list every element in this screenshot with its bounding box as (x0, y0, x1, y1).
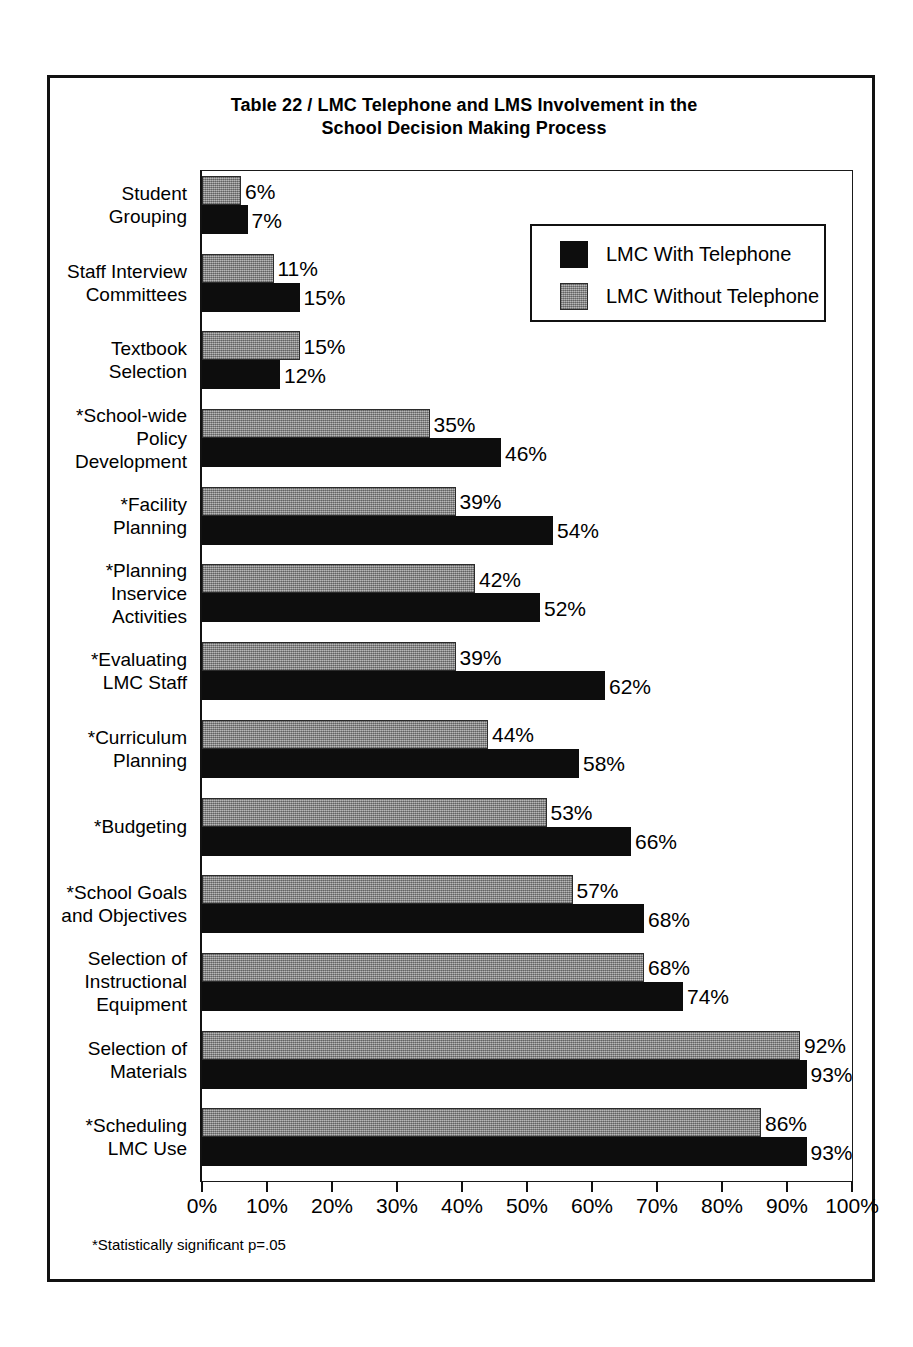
footnote: *Statistically significant p=.05 (92, 1236, 286, 1254)
bar-with-telephone (202, 593, 540, 622)
category-label-line: Equipment (0, 993, 187, 1016)
bar-without-telephone (202, 875, 573, 904)
bar-row: 52% (202, 593, 852, 622)
category-label-line: *Curriculum (0, 726, 187, 749)
category-label: *CurriculumPlanning (0, 726, 187, 772)
category-label-line: Grouping (0, 205, 187, 228)
axis-tick-mark (526, 1181, 528, 1192)
bar-with-telephone (202, 360, 280, 389)
bar-with-telephone (202, 1137, 807, 1166)
bar-value-label: 35% (430, 413, 476, 434)
bar-with-telephone (202, 1060, 807, 1089)
bar-row: 93% (202, 1137, 852, 1166)
bar-group: 53%66% (202, 798, 852, 856)
category-label-line: Planning (0, 516, 187, 539)
axis-tick-label: 50% (506, 1194, 548, 1217)
axis-tick-mark (851, 1181, 853, 1192)
axis-tick-mark (656, 1181, 658, 1192)
axis-tick-label: 10% (246, 1194, 288, 1217)
axis-tick-mark (461, 1181, 463, 1192)
bar-row: 44% (202, 720, 852, 749)
bar-row: 92% (202, 1031, 852, 1060)
category-label-line: *School-wide (0, 404, 187, 427)
category-label: Selection ofMaterials (0, 1037, 187, 1083)
bar-without-telephone (202, 331, 300, 360)
bar-row: 68% (202, 953, 852, 982)
bar-row: 74% (202, 982, 852, 1011)
bar-without-telephone (202, 720, 488, 749)
bar-with-telephone (202, 283, 300, 312)
title-line-1: Table 22 / LMC Telephone and LMS Involve… (50, 94, 878, 117)
axis-tick-label: 100% (825, 1194, 879, 1217)
bar-value-label: 11% (274, 258, 318, 279)
bar-row: 12% (202, 360, 852, 389)
bar-without-telephone (202, 1031, 800, 1060)
category-label: *FacilityPlanning (0, 493, 187, 539)
category-label: *PlanningInserviceActivities (0, 559, 187, 628)
bar-without-telephone (202, 1108, 761, 1137)
bar-value-label: 7% (248, 209, 282, 230)
bar-with-telephone (202, 827, 631, 856)
axis-tick-mark (786, 1181, 788, 1192)
category-label-line: *Facility (0, 493, 187, 516)
category-label: StudentGrouping (0, 182, 187, 228)
axis-tick-label: 0% (187, 1194, 217, 1217)
category-label-line: Selection (0, 360, 187, 383)
category-label-line: Staff Interview (0, 260, 187, 283)
axis-tick-label: 70% (636, 1194, 678, 1217)
bar-value-label: 62% (605, 675, 651, 696)
axis-tick-mark (591, 1181, 593, 1192)
category-axis-labels: StudentGroupingStaff InterviewCommittees… (50, 171, 195, 1181)
bar-row: 58% (202, 749, 852, 778)
bar-row: 6% (202, 176, 852, 205)
legend-swatch-black-icon (560, 241, 588, 268)
bar-row: 86% (202, 1108, 852, 1137)
bar-row: 39% (202, 642, 852, 671)
bar-with-telephone (202, 671, 605, 700)
bar-value-label: 86% (761, 1112, 807, 1133)
bar-without-telephone (202, 254, 274, 283)
bar-row: 54% (202, 516, 852, 545)
category-label: *EvaluatingLMC Staff (0, 648, 187, 694)
chart-legend: LMC With Telephone LMC Without Telephone (530, 224, 826, 322)
bar-row: 66% (202, 827, 852, 856)
bar-with-telephone (202, 904, 644, 933)
category-label-line: and Objectives (0, 904, 187, 927)
bar-value-label: 57% (573, 879, 619, 900)
category-label: Selection ofInstructionalEquipment (0, 947, 187, 1016)
bar-row: 68% (202, 904, 852, 933)
bar-group: 86%93% (202, 1108, 852, 1166)
bar-group: 39%54% (202, 487, 852, 545)
bar-value-label: 74% (683, 986, 729, 1007)
category-label-line: Activities (0, 605, 187, 628)
axis-tick-label: 80% (701, 1194, 743, 1217)
legend-item-without-telephone: LMC Without Telephone (560, 281, 819, 311)
bar-with-telephone (202, 749, 579, 778)
title-line-2: School Decision Making Process (50, 117, 878, 140)
category-label: *Budgeting (0, 815, 187, 838)
bar-value-label: 44% (488, 724, 534, 745)
bar-row: 46% (202, 438, 852, 467)
bar-without-telephone (202, 409, 430, 438)
axis-tick-label: 20% (311, 1194, 353, 1217)
legend-item-with-telephone: LMC With Telephone (560, 239, 791, 269)
bar-row: 57% (202, 875, 852, 904)
legend-label-with-telephone: LMC With Telephone (606, 244, 791, 264)
bar-value-label: 42% (475, 568, 521, 589)
category-label-line: LMC Use (0, 1137, 187, 1160)
bar-with-telephone (202, 982, 683, 1011)
bar-with-telephone (202, 438, 501, 467)
category-label-line: Planning (0, 749, 187, 772)
category-label-line: Student (0, 182, 187, 205)
bar-value-label: 39% (456, 491, 502, 512)
axis-tick-label: 60% (571, 1194, 613, 1217)
bar-without-telephone (202, 798, 547, 827)
figure-frame: Table 22 / LMC Telephone and LMS Involve… (47, 75, 875, 1282)
bar-with-telephone (202, 205, 248, 234)
axis-tick-mark (266, 1181, 268, 1192)
category-label: *School-widePolicyDevelopment (0, 404, 187, 473)
category-label: Staff InterviewCommittees (0, 260, 187, 306)
bar-row: 35% (202, 409, 852, 438)
axis-tick-label: 30% (376, 1194, 418, 1217)
page-title: Table 22 / LMC Telephone and LMS Involve… (50, 94, 878, 140)
